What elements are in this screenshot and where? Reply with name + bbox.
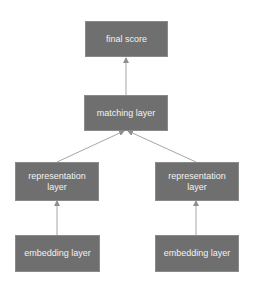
node-label: representation layer [20,171,94,193]
edge-representation-right-to-matching [128,131,196,162]
node-matching-layer: matching layer [84,95,168,131]
node-label: final score [106,34,147,45]
node-label: representation layer [160,171,234,193]
node-representation-layer-right: representation layer [155,162,239,201]
node-label: embedding layer [164,248,231,259]
node-final-score: final score [85,21,168,57]
diagram-canvas: final score matching layer representatio… [0,0,253,287]
edge-representation-left-to-matching [57,131,124,162]
node-embedding-layer-left: embedding layer [15,235,100,272]
node-label: embedding layer [24,248,91,259]
node-representation-layer-left: representation layer [15,162,99,201]
node-embedding-layer-right: embedding layer [155,235,239,272]
node-label: matching layer [97,108,156,119]
